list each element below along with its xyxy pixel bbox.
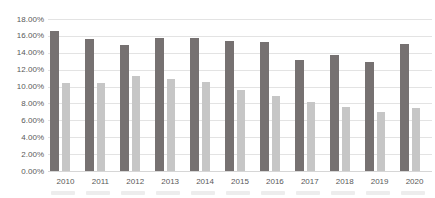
bar-series-light-gray-2017 bbox=[307, 102, 315, 171]
bar-series-light-gray-2020 bbox=[412, 108, 420, 171]
bar-series-dark-gray-2013 bbox=[155, 38, 164, 171]
bar-series-dark-gray-2010 bbox=[50, 31, 59, 171]
y-tick-label: 4.00% bbox=[0, 133, 44, 142]
y-tick-label: 10.00% bbox=[0, 82, 44, 91]
x-tick-label-2012: 2012 bbox=[118, 177, 152, 186]
x-tick-label-2011: 2011 bbox=[83, 177, 117, 186]
bar-series-light-gray-2019 bbox=[377, 112, 385, 171]
gridline bbox=[48, 70, 432, 71]
bar-series-dark-gray-2014 bbox=[190, 38, 199, 171]
y-tick-label: 18.00% bbox=[0, 15, 44, 24]
x-tick-label-2015: 2015 bbox=[223, 177, 257, 186]
bar-series-dark-gray-2016 bbox=[260, 42, 269, 171]
bar-series-light-gray-2010 bbox=[62, 83, 70, 171]
y-tick-label: 12.00% bbox=[0, 65, 44, 74]
x-tick-label-2019: 2019 bbox=[363, 177, 397, 186]
y-tick-label: 6.00% bbox=[0, 116, 44, 125]
cropped-bottom-strip-mark bbox=[191, 191, 215, 195]
bar-series-light-gray-2014 bbox=[202, 82, 210, 171]
bar-series-light-gray-2013 bbox=[167, 79, 175, 171]
bar-series-dark-gray-2018 bbox=[330, 55, 339, 171]
bar-series-dark-gray-2012 bbox=[120, 45, 129, 171]
x-tick-label-2020: 2020 bbox=[398, 177, 432, 186]
y-tick-label: 8.00% bbox=[0, 99, 44, 108]
x-axis-line bbox=[48, 171, 432, 172]
x-tick-label-2010: 2010 bbox=[48, 177, 82, 186]
bar-series-dark-gray-2017 bbox=[295, 60, 304, 171]
cropped-bottom-strip-mark bbox=[51, 191, 75, 195]
bar-series-dark-gray-2015 bbox=[225, 41, 234, 171]
cropped-bottom-strip-mark bbox=[86, 191, 110, 195]
x-tick-label-2016: 2016 bbox=[258, 177, 292, 186]
bar-series-dark-gray-2019 bbox=[365, 62, 374, 171]
cropped-bottom-strip-mark bbox=[331, 191, 355, 195]
gridline bbox=[48, 19, 432, 20]
x-tick-label-2017: 2017 bbox=[293, 177, 327, 186]
y-tick-label: 0.00% bbox=[0, 167, 44, 176]
gridline bbox=[48, 87, 432, 88]
x-tick-label-2018: 2018 bbox=[328, 177, 362, 186]
bar-series-light-gray-2015 bbox=[237, 90, 245, 171]
cropped-bottom-strip-mark bbox=[261, 191, 285, 195]
y-tick-label: 14.00% bbox=[0, 48, 44, 57]
bar-series-light-gray-2011 bbox=[97, 83, 105, 171]
y-tick-label: 16.00% bbox=[0, 31, 44, 40]
cropped-bottom-strip-mark bbox=[156, 191, 180, 195]
bar-series-dark-gray-2011 bbox=[85, 39, 94, 171]
bar-series-light-gray-2018 bbox=[342, 107, 350, 171]
gridline bbox=[48, 36, 432, 37]
x-tick-label-2013: 2013 bbox=[153, 177, 187, 186]
bar-series-light-gray-2016 bbox=[272, 96, 280, 171]
cropped-bottom-strip-mark bbox=[296, 191, 320, 195]
cropped-bottom-strip-mark bbox=[226, 191, 250, 195]
cropped-bottom-strip-mark bbox=[401, 191, 425, 195]
cropped-bottom-strip-mark bbox=[121, 191, 145, 195]
y-tick-label: 2.00% bbox=[0, 150, 44, 159]
bar-series-dark-gray-2020 bbox=[400, 44, 409, 171]
bar-series-light-gray-2012 bbox=[132, 76, 140, 171]
x-tick-label-2014: 2014 bbox=[188, 177, 222, 186]
gridline bbox=[48, 53, 432, 54]
bar-chart: 18.00%16.00%14.00%12.00%10.00%8.00%6.00%… bbox=[0, 0, 435, 198]
cropped-bottom-strip-mark bbox=[366, 191, 390, 195]
